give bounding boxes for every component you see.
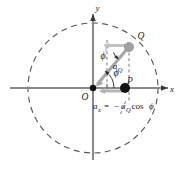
a-Q-label-subscript: Q: [118, 66, 123, 73]
equation-minus-sign: −: [114, 101, 119, 111]
point-Q-label: Q: [138, 31, 145, 41]
x-axis-label: x: [169, 84, 174, 94]
equation-lhs-subscript: x: [97, 106, 101, 113]
phi-label-at-Q: ϕ: [100, 50, 105, 61]
point-O-marker: [90, 85, 96, 91]
point-O-label: O: [82, 92, 89, 102]
physics-diagram-figure: x y O P Q ϕ ϕ a Q a x = − a Q cos ϕ: [0, 0, 187, 173]
reference-circle-diagram: x y O P Q ϕ ϕ a Q a x = − a Q cos ϕ: [0, 0, 187, 173]
point-P-label: P: [126, 76, 133, 86]
equation-equals-sign: =: [104, 101, 109, 111]
point-Q-marker: [124, 42, 133, 51]
equation-angle-symbol: ϕ: [149, 101, 154, 111]
y-axis-label: y: [95, 3, 100, 13]
equation-cosine-function: cos: [132, 101, 144, 111]
equation-rhs-subscript: Q: [126, 106, 131, 113]
